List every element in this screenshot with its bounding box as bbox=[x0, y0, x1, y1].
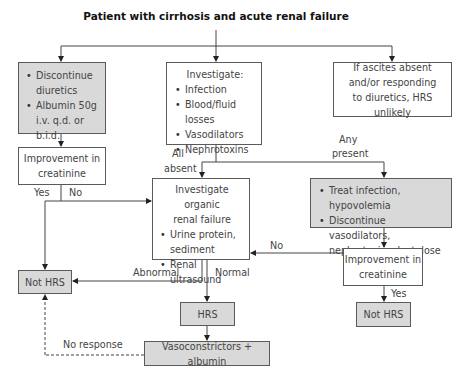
box-label: HRS bbox=[198, 307, 218, 322]
box-line: to diuretics, HRS unlikely bbox=[334, 90, 451, 120]
investigate-organic-box: Investigate organic renal failure Urine … bbox=[152, 178, 250, 260]
discontinue-diuretics-box: Discontinue diuretics Albumin 50g i.v. q… bbox=[18, 62, 106, 134]
edge-label-no-response: No response bbox=[63, 338, 123, 352]
hrs-box: HRS bbox=[180, 302, 235, 326]
box-line: If ascites absent bbox=[353, 60, 432, 75]
list-item: Blood/fluid losses bbox=[173, 97, 257, 127]
box-line: and/or responding bbox=[349, 75, 437, 90]
box-line: Improvement in bbox=[345, 252, 421, 267]
treat-box: Treat infection, hypovolemia Discontinue… bbox=[310, 178, 452, 228]
not-hrs-left-box: Not HRS bbox=[18, 270, 72, 294]
edge-label-yes-right: Yes bbox=[391, 287, 407, 301]
list-item: Nephrotoxins bbox=[173, 142, 257, 157]
box-line: creatinine bbox=[38, 166, 86, 181]
edge-label-no-right: No bbox=[270, 239, 283, 253]
edge-label-any-present: present bbox=[332, 147, 368, 161]
ascites-box: If ascites absent and/or responding to d… bbox=[333, 62, 452, 117]
improvement-creatinine-left-box: Improvement in creatinine bbox=[18, 147, 106, 185]
box-line: Investigate organic bbox=[158, 182, 246, 212]
edge-label-yes-left: Yes bbox=[34, 186, 50, 200]
edge-label-normal: Normal bbox=[215, 266, 250, 280]
improvement-creatinine-right-box: Improvement in creatinine bbox=[343, 248, 423, 286]
edge-label-any-present: Any bbox=[339, 133, 357, 147]
edge-label-all-absent: All bbox=[172, 147, 184, 161]
investigate-box: Investigate: Infection Blood/fluid losse… bbox=[166, 62, 262, 145]
list-item: Albumin 50g i.v. q.d. or b.i.d. bbox=[24, 98, 101, 143]
box-label: Vasoconstrictors + albumin bbox=[145, 339, 269, 369]
box-label: Not HRS bbox=[25, 275, 65, 290]
edge-label-no-left: No bbox=[69, 186, 82, 200]
list-item: Infection bbox=[173, 82, 257, 97]
list-item: Urine protein, sediment bbox=[158, 227, 246, 257]
not-hrs-right-box: Not HRS bbox=[356, 302, 411, 327]
box-label: Not HRS bbox=[364, 307, 404, 322]
box-line: renal failure bbox=[158, 212, 246, 227]
box-line: creatinine bbox=[359, 267, 407, 282]
edge-label-all-absent: absent bbox=[164, 162, 197, 176]
list-item: Discontinue diuretics bbox=[24, 68, 101, 98]
vasoconstrictors-box: Vasoconstrictors + albumin bbox=[144, 341, 270, 366]
investigate-heading: Investigate: bbox=[173, 67, 257, 82]
list-item: Treat infection, hypovolemia bbox=[317, 183, 447, 213]
box-line: Improvement in bbox=[24, 151, 100, 166]
list-item: Vasodilators bbox=[173, 127, 257, 142]
edge-label-abnormal: Abnormal bbox=[133, 266, 179, 280]
